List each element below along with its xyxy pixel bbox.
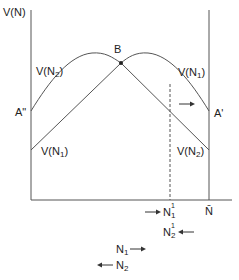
arrow-right-icon	[145, 210, 161, 215]
arrow-left-icon	[178, 230, 194, 235]
arrow-right-icon	[179, 102, 195, 107]
curve-label-v-n1-upper: V(N1)	[178, 66, 205, 82]
point-b	[119, 61, 123, 65]
curve-label-v-n1-lower: V(N1)	[41, 145, 68, 161]
arrow-right-icon	[130, 247, 146, 252]
annotation-n1: N1	[116, 243, 128, 259]
curve-label-v-n2-lower: V(N2)	[177, 145, 204, 161]
left-intercept-label: A"	[15, 106, 26, 118]
annotation-n2: N2	[116, 259, 128, 275]
y-axis-label: V(N)	[3, 6, 26, 18]
curve-label-v-n2-upper: V(N2)	[36, 65, 63, 81]
arrow-left-icon	[97, 263, 113, 268]
diagram-canvas	[0, 0, 239, 280]
x-axis-end-label: N̄	[205, 205, 213, 217]
right-intercept-label: A'	[214, 107, 223, 119]
annotation-n2-1: N12	[163, 226, 175, 242]
point-b-label: B	[114, 43, 121, 55]
